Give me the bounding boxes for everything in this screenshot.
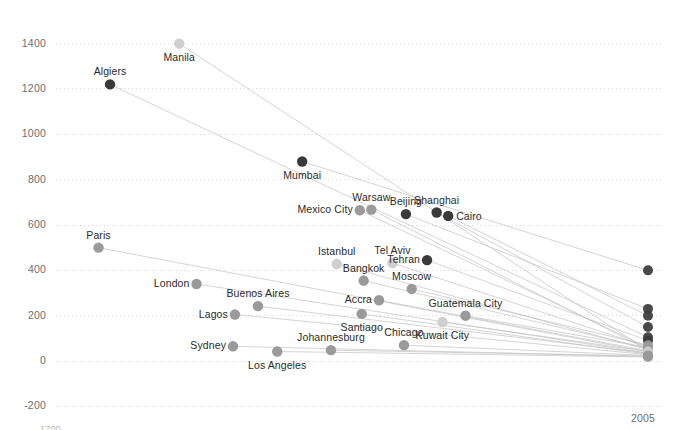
data-point-marker <box>230 309 240 319</box>
y-axis-tick-label: 200 <box>0 309 46 321</box>
y-axis-tick-label: -200 <box>0 399 46 411</box>
data-point-marker <box>105 79 115 89</box>
data-point-marker <box>297 156 307 166</box>
data-point-marker <box>399 340 409 350</box>
data-point-marker <box>326 345 336 355</box>
series-connector-line <box>437 213 648 328</box>
data-point-marker <box>643 352 653 362</box>
data-point-marker <box>437 317 447 327</box>
data-point-label: London <box>154 277 190 289</box>
data-point-label: Sydney <box>190 339 226 351</box>
y-axis-tick-label: 1200 <box>0 82 46 94</box>
y-axis-tick-label: 1400 <box>0 37 46 49</box>
x-axis-tick-label-end: 2005 <box>631 412 655 424</box>
data-point-label: Manila <box>163 51 195 63</box>
data-point-marker <box>366 204 376 214</box>
data-point-marker <box>253 301 263 311</box>
y-axis-tick-label: 600 <box>0 218 46 230</box>
data-point-marker <box>460 310 470 320</box>
data-point-marker <box>358 275 368 285</box>
data-point-label: Tehran <box>387 253 420 265</box>
data-point-label: Accra <box>345 293 372 305</box>
data-point-marker <box>374 295 384 305</box>
data-point-marker <box>431 207 441 217</box>
data-point-label: Johannesburg <box>297 331 365 343</box>
data-point-marker <box>643 322 653 332</box>
data-point-label: Moscow <box>392 270 431 282</box>
data-point-label: Mexico City <box>297 203 352 215</box>
data-point-label: Mumbai <box>283 169 321 181</box>
data-point-marker <box>272 346 282 356</box>
data-point-marker <box>443 211 453 221</box>
data-point-marker <box>406 284 416 294</box>
data-point-label: Cairo <box>456 210 482 222</box>
data-point-marker <box>174 38 184 48</box>
data-point-marker <box>422 255 432 265</box>
data-point-marker <box>355 205 365 215</box>
series-connector-line <box>465 316 648 348</box>
y-axis-tick-label: 1000 <box>0 127 46 139</box>
data-point-marker <box>228 341 238 351</box>
data-point-marker <box>401 209 411 219</box>
data-point-label: Paris <box>86 229 110 241</box>
data-point-marker <box>643 265 653 275</box>
data-point-label: Buenos Aires <box>226 287 289 299</box>
data-point-label: Bangkok <box>343 262 385 274</box>
y-axis-tick-label: 800 <box>0 173 46 185</box>
data-point-label: Lagos <box>199 308 228 320</box>
data-point-label: Chicago <box>384 326 423 338</box>
data-point-marker <box>643 311 653 321</box>
y-axis-tick-label: 400 <box>0 263 46 275</box>
data-point-marker <box>332 259 342 269</box>
data-point-label: Algiers <box>94 65 127 77</box>
data-point-label: Kuwait City <box>416 329 470 341</box>
data-point-marker <box>93 242 103 252</box>
data-point-label: Warsaw <box>352 191 390 203</box>
data-point-label: Shanghai <box>414 194 459 206</box>
data-point-label: Los Angeles <box>248 359 306 371</box>
data-point-label: Guatemala City <box>429 297 503 309</box>
scatter-chart: 1400120010008006004002000-200 20051700 M… <box>0 0 676 430</box>
y-axis-tick-label: 0 <box>0 354 46 366</box>
data-point-label: Istanbul <box>318 245 356 257</box>
data-point-marker <box>191 279 201 289</box>
x-axis-tick-label-start: 1700 <box>40 424 61 430</box>
data-point-marker <box>357 309 367 319</box>
series-connector-line <box>364 281 648 349</box>
